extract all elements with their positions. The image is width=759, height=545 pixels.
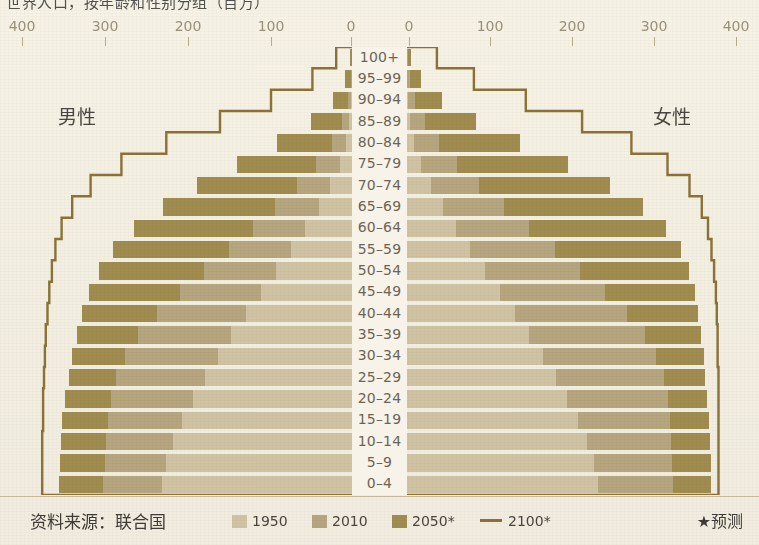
- female-bars-panel: [407, 47, 759, 495]
- bar-row: [0, 177, 352, 194]
- bar-1950-female: [407, 433, 587, 450]
- bar-1950-male: [205, 369, 352, 386]
- bar-row: [407, 177, 759, 194]
- bar-1950-male: [218, 348, 352, 365]
- axis-tick-mark: [654, 37, 655, 46]
- age-group-label-80-84: 80–84: [352, 134, 407, 150]
- bar-row: [407, 220, 759, 237]
- legend-item-2050[interactable]: 2050*: [392, 511, 455, 527]
- legend-item-2100[interactable]: 2100*: [480, 511, 551, 527]
- bar-1950-female: [407, 241, 470, 258]
- bar-row: [0, 305, 352, 322]
- bar-1950-male: [340, 156, 352, 173]
- bar-2010-female: [407, 70, 410, 87]
- bar-1950-male: [182, 412, 352, 429]
- bar-row: [407, 326, 759, 343]
- axis-tick-label-right-200: 200: [559, 18, 586, 34]
- bar-1950-male: [173, 433, 352, 450]
- bar-row: [0, 412, 352, 429]
- bar-row: [0, 369, 352, 386]
- bar-2010-female: [407, 113, 425, 130]
- age-group-label-30-34: 30–34: [352, 347, 407, 363]
- population-pyramid-plot: 100+95–9990–9485–8980–8475–7970–7465–696…: [0, 47, 759, 495]
- axis-tick-label-left-0: 0: [347, 18, 356, 34]
- bar-1950-male: [291, 241, 352, 258]
- bar-1950-male: [166, 454, 352, 471]
- axis-tick-mark: [271, 37, 272, 46]
- bar-row: [0, 49, 352, 66]
- age-group-label-50-54: 50–54: [352, 262, 407, 278]
- legend-swatch-icon: [392, 515, 407, 528]
- axis-tick-mark: [351, 37, 352, 46]
- legend-line-icon: [480, 519, 502, 522]
- bar-1950-male: [319, 198, 352, 215]
- age-group-label-85-89: 85–89: [352, 113, 407, 129]
- bar-row: [407, 412, 759, 429]
- bar-row: [0, 156, 352, 173]
- bar-row: [407, 390, 759, 407]
- age-group-label-70-74: 70–74: [352, 177, 407, 193]
- legend-label: 1950: [252, 513, 288, 529]
- legend-item-2010[interactable]: 2010: [312, 511, 368, 527]
- age-group-axis: 100+95–9990–9485–8980–8475–7970–7465–696…: [352, 47, 407, 495]
- bar-row: [0, 348, 352, 365]
- bar-1950-female: [407, 369, 556, 386]
- bar-row: [407, 348, 759, 365]
- bar-1950-male: [162, 476, 352, 493]
- legend-swatch-icon: [232, 515, 247, 528]
- axis-tick-label-right-100: 100: [477, 18, 504, 34]
- bar-row: [407, 92, 759, 109]
- bar-row: [0, 326, 352, 343]
- bar-row: [407, 113, 759, 130]
- age-group-label-15-19: 15–19: [352, 411, 407, 427]
- bar-row: [0, 198, 352, 215]
- axis-tick-label-left-300: 300: [92, 18, 119, 34]
- bar-row: [0, 241, 352, 258]
- bar-1950-female: [407, 262, 485, 279]
- bar-1950-female: [407, 305, 515, 322]
- bar-row: [407, 241, 759, 258]
- axis-tick-label-left-400: 400: [9, 18, 36, 34]
- bar-row: [407, 70, 759, 87]
- bar-row: [0, 284, 352, 301]
- bar-1950-male: [276, 262, 352, 279]
- bar-1950-female: [407, 92, 408, 109]
- legend-label: 2050*: [412, 513, 455, 529]
- bar-2010-female: [407, 92, 415, 109]
- bar-row: [0, 134, 352, 151]
- axis-tick-mark: [105, 37, 106, 46]
- bar-1950-female: [407, 454, 594, 471]
- bar-1950-female: [407, 326, 529, 343]
- bar-1950-female: [407, 198, 443, 215]
- axis-tick-label-right-400: 400: [723, 18, 750, 34]
- age-group-label-40-44: 40–44: [352, 305, 407, 321]
- bar-1950-female: [407, 412, 578, 429]
- bar-row: [0, 220, 352, 237]
- bar-row: [0, 113, 352, 130]
- male-bars-panel: [0, 47, 352, 495]
- axis-tick-mark: [188, 37, 189, 46]
- axis-scale: 40030020010000100200300400: [0, 18, 759, 48]
- bar-row: [0, 454, 352, 471]
- legend-label: 2100*: [508, 513, 551, 529]
- bar-1950-male: [330, 177, 352, 194]
- bar-row: [0, 262, 352, 279]
- male-label: 男性: [58, 102, 96, 129]
- chart-footer: 资料来源：联合国 ★预测 195020102050*2100*: [0, 497, 759, 545]
- page-title: 世界人口，按年龄和性别分组（百万）: [6, 0, 270, 12]
- bar-row: [407, 262, 759, 279]
- bar-row: [407, 284, 759, 301]
- axis-tick-mark: [409, 37, 410, 46]
- axis-tick-label-left-200: 200: [175, 18, 202, 34]
- legend-item-1950[interactable]: 1950: [232, 511, 288, 527]
- age-group-label-100+: 100+: [352, 49, 407, 65]
- bar-row: [407, 476, 759, 493]
- bar-row: [0, 70, 352, 87]
- bar-1950-male: [261, 284, 352, 301]
- bar-1950-female: [407, 113, 410, 130]
- bar-row: [407, 454, 759, 471]
- bar-1950-male: [305, 220, 352, 237]
- bar-1950-female: [407, 134, 414, 151]
- age-group-label-35-39: 35–39: [352, 326, 407, 342]
- bar-1950-male: [231, 326, 352, 343]
